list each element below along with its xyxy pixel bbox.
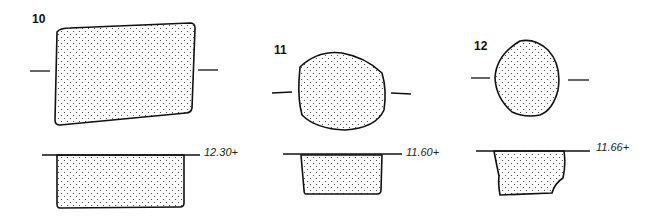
figure-12-section: [494, 151, 565, 195]
figure-11-section: [301, 155, 382, 194]
figure-12: 12 11.66+: [471, 39, 630, 195]
figure-12-level-label: 11.66+: [596, 141, 630, 153]
figure-10-number: 10: [32, 12, 46, 26]
figure-11-plan: [299, 53, 385, 130]
figure-10-level-label: 12.30+: [204, 146, 239, 158]
figure-10-plan: [55, 23, 195, 125]
figure-11-level-label: 11.60+: [406, 146, 440, 158]
figure-plates: 10 12.30+ 11 11.60+ 12 11.66+: [0, 0, 654, 219]
figure-12-plan: [495, 40, 559, 116]
figure-11: 11 11.60+: [272, 43, 440, 194]
figure-11-number: 11: [274, 43, 287, 57]
figure-12-number: 12: [474, 39, 488, 53]
figure-10-section: [57, 155, 184, 208]
figure-11-axis-right: [391, 93, 411, 94]
figure-11-axis-left: [272, 92, 292, 93]
figure-10: 10 12.30+: [30, 12, 239, 208]
